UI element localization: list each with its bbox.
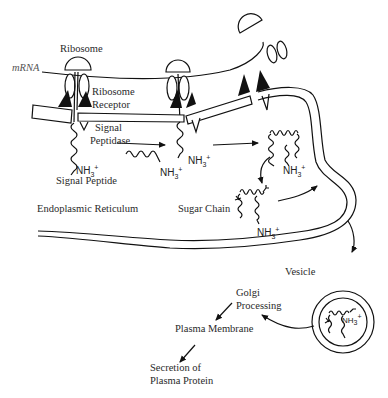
label-mrna: mRNA bbox=[12, 62, 39, 74]
label-vesicle: Vesicle bbox=[285, 266, 315, 278]
label-nh3-6: NH3+ bbox=[342, 311, 362, 328]
label-plasma-membrane: Plasma Membrane bbox=[175, 323, 253, 335]
label-secretion-line1: Secretion of bbox=[150, 362, 201, 374]
ribosome-small-subunit-free bbox=[265, 40, 288, 64]
ribosome-2 bbox=[166, 60, 196, 122]
label-ribosome-receptor-line2: Receptor bbox=[92, 99, 130, 111]
label-signal-peptidase-line2: Peptidase bbox=[90, 135, 130, 147]
diagram-canvas: Ribosome mRNA Ribosome Receptor Signal P… bbox=[0, 0, 388, 398]
label-ribosome: Ribosome bbox=[60, 43, 103, 55]
label-secretion-line2: Plasma Protein bbox=[150, 375, 213, 387]
label-nh3-5: NH3+ bbox=[257, 224, 279, 242]
nascent-chain-2 bbox=[177, 122, 183, 158]
ribosome-large-subunit-free bbox=[238, 14, 262, 33]
label-sugar-chain: Sugar Chain bbox=[178, 203, 230, 215]
label-nh3-4: NH3+ bbox=[283, 162, 305, 180]
folded-protein-1 bbox=[269, 131, 300, 167]
label-nh3-3: NH3+ bbox=[188, 152, 210, 170]
label-signal-peptidase-line1: Signal bbox=[95, 122, 122, 134]
label-endoplasmic-reticulum: Endoplasmic Reticulum bbox=[37, 203, 138, 215]
label-nh3-2: NH3+ bbox=[160, 164, 182, 182]
er-membrane-left-stub bbox=[32, 105, 72, 123]
label-signal-peptide: Signal Peptide bbox=[56, 175, 117, 187]
label-golgi-line2: Processing bbox=[236, 300, 282, 312]
sugar-chain-branch-2 bbox=[263, 185, 269, 192]
diagram-drawing bbox=[0, 0, 388, 398]
label-golgi-line1: Golgi bbox=[236, 287, 260, 299]
er-membrane-top bbox=[78, 113, 184, 122]
glycosylated-protein bbox=[238, 190, 264, 225]
signal-peptide-released bbox=[126, 151, 160, 162]
label-ribosome-receptor-line1: Ribosome bbox=[92, 86, 135, 98]
